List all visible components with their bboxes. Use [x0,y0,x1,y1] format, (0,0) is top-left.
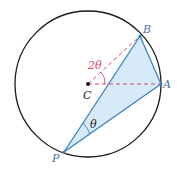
label-B: B [142,23,151,36]
point-P [62,150,65,153]
point-B [138,34,141,37]
label-P: P [51,152,60,165]
central-angle-arc [101,72,105,84]
center-point [86,82,90,86]
label-A: A [162,78,171,91]
inscribed-angle-diagram: B A C P 2θ θ [0,0,177,174]
label-2theta: 2θ [87,59,102,72]
label-theta: θ [90,118,97,131]
label-C: C [83,89,92,102]
